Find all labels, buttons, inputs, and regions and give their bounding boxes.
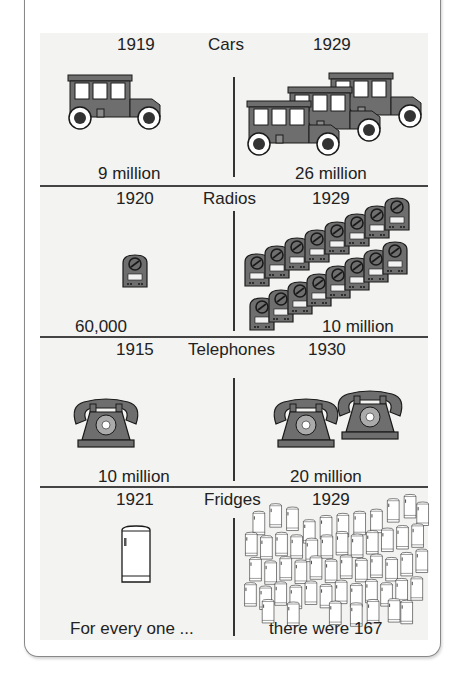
section-cars: 1919 Cars 1929 9 million <box>40 33 428 186</box>
comparison-panel: 1919 Cars 1929 9 million <box>40 33 428 640</box>
telephone-icon-group <box>270 388 420 448</box>
car-icon-group <box>247 73 427 163</box>
right-year: 1929 <box>313 35 351 55</box>
left-year: 1920 <box>116 189 154 209</box>
category-label: Telephones <box>188 340 275 360</box>
left-value: For every one ... <box>70 619 194 639</box>
section-fridges: 1921 Fridges 1929 <box>40 488 428 640</box>
left-year: 1915 <box>116 340 154 360</box>
left-value: 10 million <box>98 467 170 487</box>
radio-icon-group <box>244 197 424 332</box>
radio-icon <box>122 254 148 288</box>
column-divider <box>233 211 235 331</box>
section-radios: 1920 Radios 1929 60,000 10 million <box>40 187 428 337</box>
column-divider <box>233 518 235 636</box>
column-divider <box>233 378 235 481</box>
column-divider <box>233 77 235 177</box>
right-value: there were 167 <box>269 619 382 639</box>
left-year: 1921 <box>116 490 154 510</box>
fridge-icon <box>121 525 151 583</box>
right-value: 26 million <box>295 164 367 184</box>
right-year: 1930 <box>308 340 346 360</box>
left-year: 1919 <box>117 35 155 55</box>
category-label: Cars <box>208 35 244 55</box>
section-telephones: 1915 Telephones 1930 10 million 20 milli… <box>40 338 428 488</box>
car-icon <box>68 75 168 135</box>
left-value: 60,000 <box>75 317 127 337</box>
right-value: 10 million <box>322 317 394 337</box>
fridge-icon-group <box>245 494 425 619</box>
right-value: 20 million <box>290 467 362 487</box>
telephone-icon <box>70 396 142 448</box>
left-value: 9 million <box>98 164 160 184</box>
